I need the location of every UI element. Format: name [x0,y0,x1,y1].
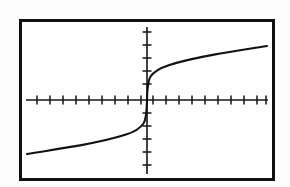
screenshot-root [0,0,290,187]
calculator-screen-frame [19,19,275,181]
function-graph [22,22,272,178]
